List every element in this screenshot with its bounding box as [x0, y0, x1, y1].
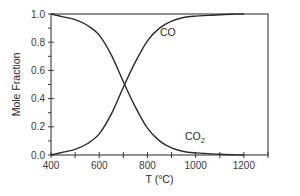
y-tick-label: 0.8	[31, 37, 45, 48]
y-tick-label: 0.4	[31, 93, 45, 104]
y-axis-title: Mole Fraction	[10, 53, 22, 117]
series-line-co	[51, 14, 244, 155]
series-line-co2	[51, 14, 244, 155]
x-axis-title: T (°C)	[146, 173, 174, 185]
x-tick-label: 800	[139, 160, 156, 171]
line-chart: 40060080010001200T (°C)0.00.20.40.60.81.…	[0, 0, 300, 196]
y-tick-label: 0.2	[31, 121, 45, 132]
x-tick-label: 1000	[185, 160, 208, 171]
y-tick-label: 0.6	[31, 65, 45, 76]
series-label-co: CO	[160, 26, 176, 38]
y-tick-label: 0.0	[31, 150, 45, 161]
series-label-co2: CO2	[185, 130, 205, 145]
x-tick-label: 1200	[233, 160, 256, 171]
y-axis: 0.00.20.40.60.81.0Mole Fraction	[10, 9, 54, 161]
x-tick-label: 600	[91, 160, 108, 171]
x-tick-label: 400	[43, 160, 60, 171]
series-label-co2-main: CO	[185, 130, 201, 142]
series-label-co2-subscript: 2	[201, 136, 205, 145]
x-axis: 40060080010001200T (°C)	[43, 152, 268, 185]
y-tick-label: 1.0	[31, 9, 45, 20]
